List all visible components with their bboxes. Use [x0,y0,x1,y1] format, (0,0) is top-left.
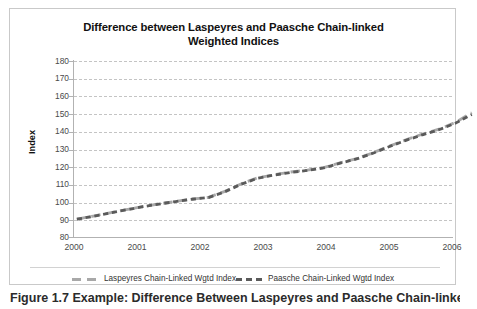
legend-swatch-laspeyres-icon [72,278,102,281]
figure-caption: Figure 1.7 Example: Difference Between L… [10,291,460,306]
series-line-paasche [77,114,472,219]
series-line-laspeyres [77,113,472,219]
series-plot [10,9,477,309]
chart-frame: Difference between Laspeyres and Paasche… [9,8,456,285]
legend-label-laspeyres: Laspeyres Chain-Linked Wgtd Index [104,274,236,284]
chart-legend: Laspeyres Chain-Linked Wgtd Index Paasch… [30,267,440,290]
legend-item-laspeyres[interactable]: Laspeyres Chain-Linked Wgtd Index [72,273,236,285]
legend-item-paasche[interactable]: Paasche Chain-Linked Wgtd Index [236,273,394,285]
legend-label-paasche: Paasche Chain-Linked Wgtd Index [268,274,394,284]
legend-swatch-paasche-icon [236,278,266,281]
